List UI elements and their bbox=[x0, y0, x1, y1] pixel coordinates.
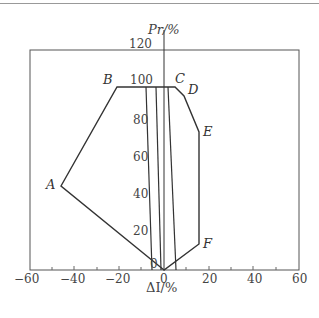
point-label-c: C bbox=[175, 71, 185, 86]
point-label-d: D bbox=[188, 82, 198, 97]
ytick-80: 80 bbox=[133, 113, 148, 127]
ytick-100: 100 bbox=[130, 73, 153, 87]
ytick-40: 40 bbox=[133, 187, 148, 201]
point-label-f: F bbox=[203, 236, 212, 251]
xtick-m40: −40 bbox=[60, 272, 85, 286]
ytick-60: 60 bbox=[133, 150, 148, 164]
inner-line-2 bbox=[156, 87, 161, 270]
xtick-60: 60 bbox=[292, 272, 307, 286]
point-label-a: A bbox=[46, 177, 55, 192]
xtick-0: 0 bbox=[160, 272, 168, 286]
xtick-m20: −20 bbox=[105, 272, 130, 286]
ytick-0: 0 bbox=[150, 257, 158, 271]
point-label-b: B bbox=[103, 72, 113, 87]
xtick-20: 20 bbox=[202, 272, 217, 286]
ytick-120: 120 bbox=[129, 37, 152, 51]
y-axis-label: Pr/% bbox=[148, 22, 180, 37]
xtick-m60: −60 bbox=[14, 272, 39, 286]
envelope-polygon bbox=[61, 87, 199, 270]
point-label-e: E bbox=[203, 124, 213, 139]
ytick-20: 20 bbox=[133, 224, 148, 238]
inner-line-3 bbox=[168, 87, 176, 270]
chart-plot bbox=[0, 0, 319, 318]
xtick-40: 40 bbox=[247, 272, 262, 286]
